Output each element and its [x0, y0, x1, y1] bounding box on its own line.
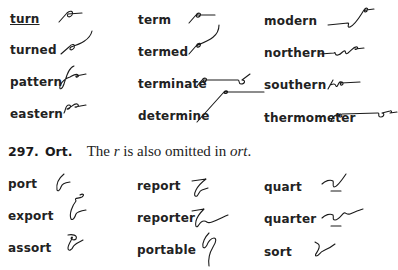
shorthand-outline-southern-icon [326, 76, 362, 92]
section-number: 297. [8, 144, 39, 159]
shorthand-outline-sort-icon [312, 238, 338, 260]
shorthand-outline-reporter-icon [190, 206, 232, 230]
description-text-1: The [87, 143, 110, 159]
section-heading: 297. Ort. The r is also omitted in ort. [8, 143, 251, 160]
word-reporter: reporter [137, 211, 195, 225]
shorthand-outline-eastern-icon [62, 100, 90, 118]
word-turn: turn [10, 12, 40, 26]
word-southern: southern [264, 78, 326, 92]
shorthand-outline-port-icon [54, 172, 74, 194]
word-export: export [8, 209, 54, 223]
word-term: term [138, 13, 171, 27]
word-modern: modern [264, 14, 317, 28]
shorthand-outline-portable-icon [200, 230, 224, 270]
word-portable: portable [137, 243, 196, 257]
word-sort: sort [264, 245, 292, 259]
word-termed: termed [138, 45, 188, 59]
description-period: . [248, 143, 252, 159]
shorthand-outline-northern-icon [318, 42, 368, 58]
shorthand-outline-quarter-icon [320, 204, 366, 230]
word-pattern: pattern [10, 75, 62, 89]
description-suffix-ort: ort [230, 143, 248, 159]
word-turned: turned [10, 43, 57, 57]
shorthand-outline-pattern-icon [58, 64, 90, 92]
shorthand-outline-report-icon [190, 176, 214, 200]
shorthand-outline-assort-icon [64, 232, 88, 254]
word-quarter: quarter [264, 212, 316, 226]
shorthand-outline-termed-icon [188, 24, 224, 56]
word-assort: assort [8, 241, 51, 255]
shorthand-outline-modern-icon [326, 4, 376, 28]
shorthand-outline-quart-icon [320, 172, 350, 196]
word-quart: quart [264, 180, 302, 194]
shorthand-outline-turn-icon [58, 8, 88, 28]
shorthand-outline-determine-icon [196, 88, 266, 124]
word-northern: northern [264, 46, 325, 60]
word-report: report [137, 179, 181, 193]
description-letter-r: r [114, 143, 120, 159]
word-port: port [8, 177, 37, 191]
description-text-2: is also omitted in [123, 143, 226, 159]
shorthand-outline-thermometer-icon [330, 104, 398, 124]
word-eastern: eastern [10, 107, 63, 121]
shorthand-outline-export-icon [66, 192, 90, 224]
shorthand-outline-turned-icon [60, 30, 96, 56]
section-title: Ort. [45, 144, 73, 159]
section-description: The r is also omitted in ort. [87, 143, 252, 159]
